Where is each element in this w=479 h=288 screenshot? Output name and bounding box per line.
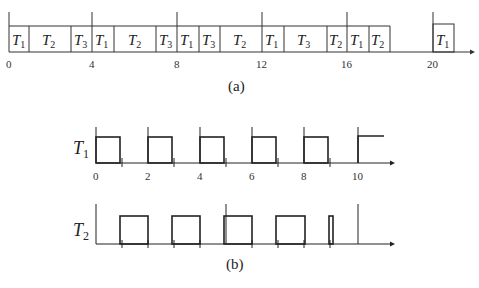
svg-text:T2: T2 [233,32,246,50]
row-t2-label: T2 [73,220,89,243]
tick-labels-a: 0 4 8 12 16 20 [6,58,439,70]
svg-text:4: 4 [197,170,203,182]
svg-text:T1: T1 [95,32,108,50]
svg-text:T1: T1 [350,32,363,50]
svg-text:T1: T1 [12,32,25,50]
svg-text:T3: T3 [297,32,310,50]
row-t1-b [96,127,395,167]
svg-text:0: 0 [6,58,12,70]
svg-text:T2: T2 [371,32,384,50]
caption-a: (a) [228,78,245,95]
row-t1-label: T1 [73,138,89,161]
tick-labels-b: 0 2 4 6 8 10 [93,170,364,182]
svg-text:8: 8 [174,58,180,70]
svg-text:T3: T3 [74,32,87,50]
svg-text:2: 2 [145,170,151,182]
svg-text:T3: T3 [159,32,172,50]
row-t2-b [96,204,395,248]
svg-text:4: 4 [89,58,95,70]
svg-text:T2: T2 [73,220,89,243]
svg-text:6: 6 [249,170,255,182]
svg-text:10: 10 [352,170,364,182]
svg-text:T1: T1 [436,32,449,50]
svg-text:T1: T1 [73,138,89,161]
caption-b: (b) [226,256,244,273]
svg-text:20: 20 [427,58,439,70]
segment-labels-a: T1 T2 T3 T1 T2 T3 T1 T3 T2 T1 T3 T2 T1 T… [12,32,449,50]
svg-text:0: 0 [93,170,99,182]
svg-text:T1: T1 [180,32,193,50]
scheduling-diagram: T1 T2 T3 T1 T2 T3 T1 T3 T2 T1 T3 T2 T1 T… [0,0,479,288]
svg-text:T3: T3 [202,32,215,50]
svg-text:8: 8 [301,170,307,182]
svg-text:T1: T1 [265,32,278,50]
svg-text:12: 12 [256,58,267,70]
svg-text:16: 16 [341,58,353,70]
svg-text:T2: T2 [128,32,141,50]
svg-text:T2: T2 [329,32,342,50]
svg-text:T2: T2 [42,32,55,50]
